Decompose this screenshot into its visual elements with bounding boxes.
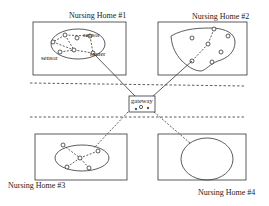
- home-2-label: Nursing Home #2: [192, 13, 249, 21]
- sensor-node: [219, 50, 223, 54]
- sensor-node: [61, 143, 65, 147]
- node-label-sensor: sensor: [83, 32, 100, 39]
- router-node: [78, 156, 82, 160]
- upper-separator: [30, 83, 245, 86]
- nursing-home-1: [33, 22, 126, 75]
- node-label-sensor: sensor: [41, 55, 58, 62]
- sensor-node: [190, 36, 194, 40]
- sensor-node: [75, 36, 79, 40]
- sensor-node: [226, 34, 230, 38]
- network-diagram: Nursing Home #1 sensor sensor router Nur…: [0, 0, 269, 206]
- sensor-node: [65, 165, 69, 169]
- nursing-home-3: [35, 134, 127, 180]
- gateway-label: gateway: [131, 98, 153, 105]
- home-4-label: Nursing Home #4: [198, 189, 255, 197]
- sensor-node: [206, 42, 210, 46]
- home-1-label: Nursing Home #1: [69, 12, 126, 20]
- home-1-boundary: [33, 22, 126, 75]
- sensor-node: [58, 50, 62, 54]
- home-4-network-ellipse: [181, 138, 233, 180]
- sensor-node: [96, 149, 100, 153]
- sensor-node: [210, 60, 214, 64]
- nursing-home-4: [158, 134, 246, 180]
- sensor-node: [212, 27, 216, 31]
- sensor-node: [63, 33, 67, 37]
- sensor-node: [87, 166, 91, 170]
- home-3-label: Nursing Home #3: [8, 182, 65, 190]
- nursing-home-2: [158, 22, 247, 75]
- sensor-node: [51, 40, 55, 44]
- sensor-node: [72, 48, 76, 52]
- node-label-router: router: [90, 51, 106, 58]
